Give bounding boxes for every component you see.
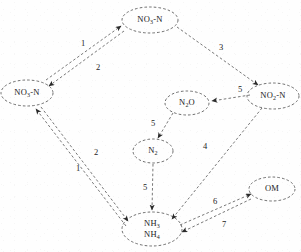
node-label-no2n-right: NO2-N xyxy=(260,91,285,101)
nitrogen-cycle-diagram: NO3-N NO3-N NO2-N N2O N2 NH3NH4 OM 1 2 3… xyxy=(0,0,301,252)
edge-2-arrow xyxy=(49,31,124,86)
edge-1-arrow xyxy=(46,26,121,80)
edge-label-2: 2 xyxy=(96,62,100,72)
edge-2b-arrow xyxy=(41,107,128,221)
edge-label-1: 1 xyxy=(81,38,85,48)
node-label-n2o: N2O xyxy=(179,98,195,108)
diagram-edges xyxy=(36,26,262,232)
edge-label-6: 6 xyxy=(213,196,217,206)
edge-5a-arrow xyxy=(212,95,250,101)
edge-5c-arrow xyxy=(152,164,153,210)
edge-label-5b: 5 xyxy=(151,118,155,128)
node-label-om: OM xyxy=(265,184,279,194)
node-label-no3n-top: NO3-N xyxy=(137,15,162,25)
node-label-no3n-left: NO3-N xyxy=(14,88,39,98)
edge-label-3: 3 xyxy=(219,42,223,52)
edge-label-1b: 1 xyxy=(76,163,80,173)
edge-label-5c: 5 xyxy=(143,182,147,192)
edge-1b-arrow xyxy=(36,109,126,226)
edge-label-4: 4 xyxy=(203,141,207,151)
edge-label-2b: 2 xyxy=(94,147,98,157)
edge-label-5a: 5 xyxy=(238,84,242,94)
edge-label-7: 7 xyxy=(222,219,226,229)
edge-5b-arrow xyxy=(158,113,173,138)
edge-3-arrow xyxy=(177,27,258,85)
node-label-n2: N2 xyxy=(148,146,158,156)
node-label-nh3-nh4: NH3NH4 xyxy=(144,218,160,241)
